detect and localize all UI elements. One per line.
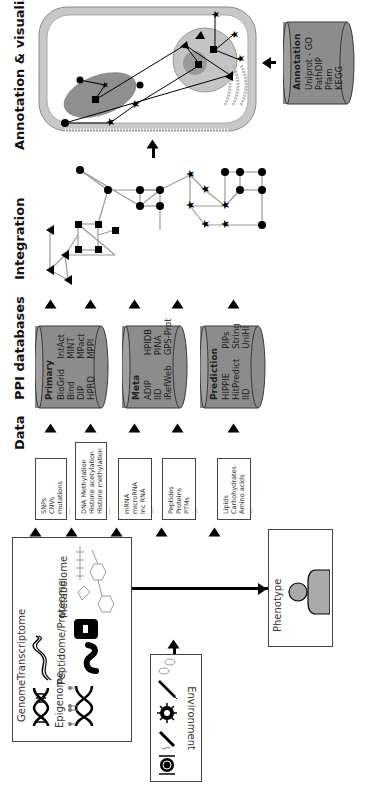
rna-strand-icon bbox=[32, 634, 54, 682]
svg-text:★: ★ bbox=[100, 81, 110, 89]
database-name: PathDIP bbox=[314, 34, 324, 90]
data-item: PTMs bbox=[183, 464, 191, 514]
annotation-to-cell-arrow-shaft bbox=[270, 61, 276, 64]
primary-database-text: Primary BioGrid Bind DIP HPRD IntAct MIN… bbox=[44, 333, 96, 400]
arrow-metabolome-data bbox=[209, 528, 221, 537]
data-item: mutations bbox=[56, 464, 64, 514]
arrowhead bbox=[258, 583, 267, 595]
svg-text:★: ★ bbox=[104, 117, 117, 127]
data-item: lnc RNA bbox=[139, 464, 147, 514]
database-name: IID bbox=[153, 365, 163, 400]
arrow-transcriptome-data bbox=[111, 528, 123, 537]
svg-text:★: ★ bbox=[129, 99, 142, 109]
arrow-primary-integration bbox=[45, 300, 57, 309]
database-name: MPact bbox=[76, 333, 86, 358]
svg-text:★: ★ bbox=[235, 54, 246, 63]
arrow-genome-data bbox=[30, 528, 42, 537]
arrow-proteome-data bbox=[156, 528, 168, 537]
database-name: iRefWeb bbox=[163, 365, 173, 400]
svg-text:★: ★ bbox=[219, 219, 232, 229]
database-name: GPS-Prot bbox=[163, 318, 173, 355]
data-item: SNPs bbox=[40, 464, 48, 514]
data-box-proteome: Peptides Proteins PTMs ... bbox=[162, 458, 196, 520]
arrow-data-primary bbox=[45, 424, 57, 433]
annotation-database-title: Annotation bbox=[292, 34, 302, 90]
data-item: microRNA bbox=[131, 464, 139, 514]
data-item: Lipids bbox=[222, 464, 230, 514]
virus-icon bbox=[156, 702, 178, 724]
primary-database-title: Primary bbox=[44, 333, 54, 400]
prediction-database-title: Prediction bbox=[209, 323, 219, 400]
database-name: String bbox=[231, 323, 241, 348]
arrow-epigenome-data bbox=[66, 528, 78, 537]
metabolome-to-phenotype-arrow bbox=[132, 587, 268, 590]
data-box-metabolome: Lipids Carbohydrates Amino acids ... bbox=[217, 458, 251, 520]
annotation-database-text: Annotation Uniprot - GO PathDIP Pfam KEG… bbox=[292, 34, 344, 90]
database-name: UniHI bbox=[241, 323, 251, 348]
arrow-prediction-integration bbox=[228, 300, 240, 309]
methylated-dna-icon bbox=[66, 682, 96, 730]
data-box-transcriptome: mRNA microRNA lnc RNA ... bbox=[118, 458, 152, 520]
arrow-primary-integration-2 bbox=[85, 300, 97, 309]
molecule-structure-icon bbox=[72, 542, 124, 620]
data-item: Carbohydrates bbox=[230, 464, 238, 514]
arrowhead bbox=[147, 140, 159, 149]
arrow-data-prediction bbox=[228, 424, 240, 433]
database-name: KEGG bbox=[334, 34, 344, 90]
arrow-meta-integration bbox=[129, 300, 141, 309]
database-name: MINT bbox=[66, 333, 76, 358]
data-item: Proteins bbox=[175, 464, 183, 514]
integrated-ppi-network: ★★ ★★ ★★ bbox=[40, 160, 270, 290]
database-name: Uniprot - GO bbox=[304, 34, 314, 90]
database-name: DIP bbox=[76, 369, 86, 400]
stage-title-data: Data bbox=[12, 415, 27, 450]
data-item: Histone acetylation bbox=[88, 448, 96, 514]
svg-text:★: ★ bbox=[184, 200, 197, 210]
stage-title-ppi: PPI databases bbox=[12, 296, 27, 400]
data-item: ... bbox=[147, 464, 155, 514]
svg-text:★: ★ bbox=[219, 200, 232, 210]
database-name: Bind bbox=[66, 369, 76, 400]
protein-structure-icon bbox=[70, 615, 102, 675]
database-name: Pfam bbox=[324, 34, 334, 90]
syringe-icon bbox=[156, 678, 178, 700]
arrowhead bbox=[168, 640, 180, 649]
database-name: PIPs bbox=[221, 323, 231, 348]
database-name: PINA bbox=[153, 318, 163, 355]
genome-label: Genome bbox=[16, 680, 27, 722]
svg-text:★: ★ bbox=[199, 219, 212, 229]
database-name: IID bbox=[241, 359, 251, 400]
database-name: MPPI bbox=[86, 333, 96, 358]
data-item: CNVs bbox=[48, 464, 56, 514]
meta-database-title: Meta bbox=[131, 318, 141, 400]
person-silhouette-icon bbox=[286, 560, 330, 620]
data-item: Peptides bbox=[167, 464, 175, 514]
data-item: Amino acids bbox=[238, 464, 246, 514]
data-item: mRNA bbox=[123, 464, 131, 514]
database-name: HPRD bbox=[86, 369, 96, 400]
stage-title-annotation: Annotation & visualization bbox=[12, 0, 27, 150]
svg-text:★: ★ bbox=[229, 30, 240, 39]
transcriptome-label: Transcriptome bbox=[16, 609, 27, 680]
data-item: ... bbox=[246, 464, 254, 514]
stage-title-integration: Integration bbox=[12, 198, 27, 280]
arrow-data-meta-2 bbox=[172, 424, 184, 433]
cell-network-visualization: ★★★ ★★★ bbox=[35, 3, 260, 135]
database-name: HitPredict bbox=[231, 359, 241, 400]
svg-text:★: ★ bbox=[210, 10, 221, 19]
plate-cutlery-icon bbox=[156, 754, 178, 776]
svg-text:★: ★ bbox=[184, 169, 197, 179]
svg-text:★: ★ bbox=[199, 184, 212, 194]
data-box-genome: SNPs CNVs mutations ... bbox=[35, 458, 67, 520]
data-item: DNA Methylation bbox=[80, 448, 88, 514]
database-name: BioGrid bbox=[56, 369, 66, 400]
database-name: HPIDB bbox=[143, 318, 153, 355]
data-item: ... bbox=[64, 464, 72, 514]
database-name: ADIP bbox=[143, 365, 153, 400]
arrow-data-meta bbox=[129, 424, 141, 433]
dna-helix-icon bbox=[30, 686, 52, 728]
arrow-meta-integration-2 bbox=[172, 300, 184, 309]
prediction-database-text: Prediction HIPPIE HitPredict IID PIPs St… bbox=[209, 323, 251, 400]
database-name: IntAct bbox=[56, 333, 66, 358]
data-box-epigenome: DNA Methylation Histone acetylation Hist… bbox=[75, 442, 107, 520]
